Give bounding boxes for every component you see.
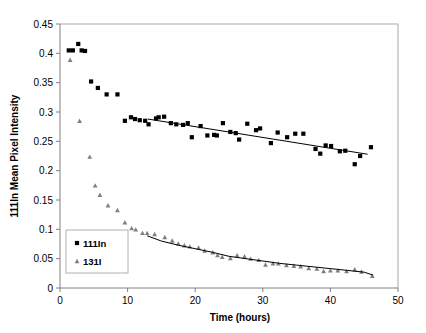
data-point-square bbox=[313, 147, 317, 151]
data-point-square bbox=[221, 121, 225, 125]
data-point-square bbox=[245, 122, 249, 126]
data-point-square bbox=[353, 162, 357, 166]
data-point-square bbox=[133, 117, 137, 121]
data-point-square bbox=[162, 115, 166, 119]
y-tick-label: 0 bbox=[47, 283, 53, 294]
data-point-square bbox=[89, 79, 93, 83]
data-point-square bbox=[76, 42, 80, 46]
data-point-square bbox=[190, 135, 194, 139]
data-point-square bbox=[67, 48, 71, 52]
y-tick-label: 0.35 bbox=[34, 77, 54, 88]
chart-container: 00.050.10.150.20.250.30.350.40.45 010203… bbox=[0, 0, 426, 333]
data-point-square bbox=[115, 92, 119, 96]
legend-box bbox=[66, 230, 128, 273]
y-tick-label: 0.45 bbox=[34, 19, 54, 30]
data-point-square bbox=[75, 241, 79, 245]
data-point-square bbox=[318, 152, 322, 156]
data-point-square bbox=[293, 132, 297, 136]
legend-label-131I: 131I bbox=[83, 256, 102, 267]
data-point-square bbox=[83, 49, 87, 53]
data-point-square bbox=[215, 133, 219, 137]
data-point-square bbox=[71, 48, 75, 52]
data-point-square bbox=[254, 128, 258, 132]
y-axis-title: 111In Mean Pixel Intensity bbox=[9, 94, 20, 217]
data-point-square bbox=[96, 86, 100, 90]
y-tick-label: 0.15 bbox=[34, 195, 54, 206]
data-point-square bbox=[285, 135, 289, 139]
x-tick-label: 30 bbox=[257, 295, 269, 306]
data-point-square bbox=[186, 121, 190, 125]
data-point-square bbox=[129, 115, 133, 119]
x-tick-label: 40 bbox=[325, 295, 337, 306]
data-point-square bbox=[138, 118, 142, 122]
x-tick-label: 20 bbox=[190, 295, 202, 306]
y-tick-label: 0.1 bbox=[39, 224, 53, 235]
data-point-square bbox=[329, 144, 333, 148]
y-tick-label: 0.2 bbox=[39, 165, 53, 176]
data-point-square bbox=[157, 115, 161, 119]
data-point-square bbox=[269, 141, 273, 145]
chart-background bbox=[0, 0, 426, 333]
y-tick-label: 0.05 bbox=[34, 253, 54, 264]
y-tick-label: 0.3 bbox=[39, 107, 53, 118]
y-tick-label: 0.25 bbox=[34, 136, 54, 147]
data-point-square bbox=[146, 122, 150, 126]
data-point-square bbox=[369, 145, 373, 149]
x-tick-label: 10 bbox=[122, 295, 134, 306]
y-tick-label: 0.4 bbox=[39, 48, 53, 59]
legend-label-111In: 111In bbox=[83, 238, 106, 249]
chart-legend: 111In131I bbox=[66, 230, 128, 273]
x-tick-label: 50 bbox=[392, 295, 404, 306]
data-point-square bbox=[276, 130, 280, 134]
data-point-square bbox=[105, 92, 109, 96]
x-tick-label: 0 bbox=[57, 295, 63, 306]
scatter-plot: 00.050.10.150.20.250.30.350.40.45 010203… bbox=[0, 0, 426, 333]
data-point-square bbox=[237, 137, 241, 141]
x-axis-title: Time (hours) bbox=[210, 312, 270, 323]
data-point-square bbox=[301, 132, 305, 136]
data-point-square bbox=[205, 133, 209, 137]
data-point-square bbox=[258, 126, 262, 130]
data-point-square bbox=[358, 154, 362, 158]
data-point-square bbox=[123, 119, 127, 123]
